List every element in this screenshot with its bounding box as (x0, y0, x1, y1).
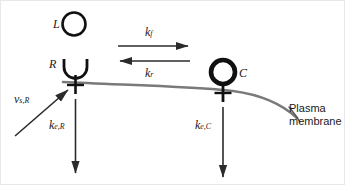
receptor-label: R (49, 58, 56, 70)
receptor-elimination-label: ke,R (49, 119, 65, 131)
reverse-rate-subscript: r (150, 70, 153, 79)
plasma-membrane-curve (63, 82, 297, 118)
ligand-label: L (53, 18, 60, 30)
complex-label: C (239, 67, 247, 79)
receptor-ligand-diagram: L R C kf kr vs,R ke,R ke,C Plasma membra… (0, 0, 345, 185)
ligand-circle (63, 13, 86, 36)
plasma-membrane-label-line1: Plasma (289, 102, 342, 115)
reverse-rate-label: kr (145, 67, 153, 79)
complex-elimination-subscript: e,C (200, 122, 211, 131)
complex-elimination-label: ke,C (195, 119, 211, 131)
receptor-elimination-subscript: e,R (54, 122, 64, 131)
plasma-membrane-label-line2: membrane (289, 115, 342, 128)
forward-rate-label: kf (145, 26, 153, 38)
synthesis-rate-subscript: s,R (19, 96, 29, 105)
forward-rate-subscript: f (150, 29, 152, 38)
synthesis-rate-label: vs,R (14, 93, 29, 105)
complex-ligand-circle (211, 60, 235, 84)
plasma-membrane-label: Plasma membrane (289, 102, 342, 127)
